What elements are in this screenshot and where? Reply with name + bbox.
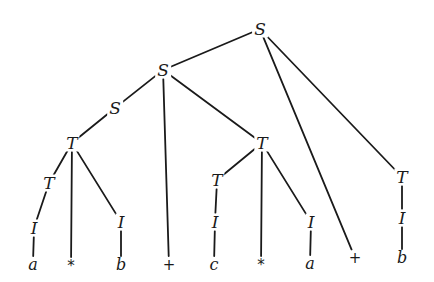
tree-edge <box>261 152 262 256</box>
tree-edge <box>33 237 34 256</box>
tree-node-symbol-I: I <box>306 214 317 231</box>
tree-edge <box>77 151 117 215</box>
tree-node-symbol-I: I <box>29 220 40 237</box>
tree-edge <box>170 75 255 137</box>
tree-node-leaf: * <box>65 259 77 274</box>
tree-node-leaf: b <box>114 257 128 273</box>
tree-node-symbol-S: S <box>107 100 123 117</box>
tree-edge <box>79 114 108 138</box>
tree-node-symbol-T: T <box>394 169 409 186</box>
tree-node-leaf: c <box>208 257 221 273</box>
tree-edge <box>37 192 46 220</box>
tree-node-symbol-S: S <box>155 62 171 79</box>
tree-node-symbol-S: S <box>252 21 268 38</box>
tree-node-symbol-I: I <box>210 214 221 231</box>
tree-edge <box>266 36 396 171</box>
tree-node-leaf: + <box>347 251 364 266</box>
tree-node-leaf: b <box>395 250 409 266</box>
tree-edge <box>163 79 168 256</box>
tree-edge <box>171 33 251 67</box>
tree-node-symbol-T: T <box>64 135 79 152</box>
tree-node-symbol-I: I <box>116 214 127 231</box>
parse-tree-diagram: SSSTTIa*Ib+TTIc*Ia+TIb <box>0 0 434 282</box>
tree-node-leaf: a <box>303 256 317 272</box>
tree-edge <box>224 149 255 175</box>
tree-node-symbol-T: T <box>209 172 224 189</box>
tree-edge <box>71 152 72 257</box>
tree-node-leaf: * <box>255 258 267 273</box>
tree-node-symbol-I: I <box>397 210 408 227</box>
tree-node-leaf: a <box>26 257 40 273</box>
tree-edge <box>122 76 156 103</box>
tree-edge <box>214 231 215 256</box>
tree-node-symbol-T: T <box>254 135 269 152</box>
tree-edge <box>215 189 216 213</box>
tree-edge <box>54 151 68 175</box>
tree-node-symbol-T: T <box>41 175 56 192</box>
tree-node-leaf: + <box>161 258 178 273</box>
tree-edge <box>310 231 311 255</box>
tree-edge <box>267 151 307 215</box>
